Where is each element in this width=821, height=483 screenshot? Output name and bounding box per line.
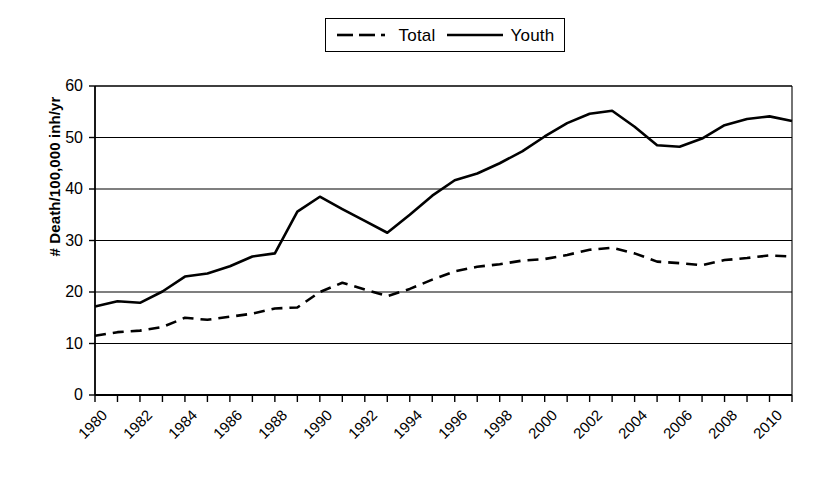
gridlines [95,86,792,344]
line-chart: Total Youth # Death/100,000 inh/yr 01020… [0,0,821,483]
data-series-layer [95,111,792,336]
plot-area [0,0,821,483]
series-line-youth [95,111,792,307]
x-axis-ticks [95,395,792,402]
